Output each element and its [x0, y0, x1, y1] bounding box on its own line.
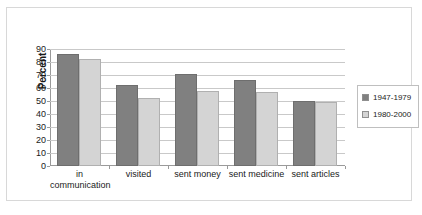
- bar: [197, 91, 219, 166]
- y-axis-tick-label: 40: [36, 110, 46, 119]
- y-axis-tick-label: 70: [36, 71, 46, 80]
- bar-group: [50, 49, 109, 166]
- x-axis-labels: incommunicationvisitedsent moneysent med…: [50, 169, 345, 199]
- x-axis-label-line: in: [50, 169, 109, 180]
- x-axis-tick-label: sent money: [168, 169, 227, 180]
- y-axis-tick-label: 80: [36, 58, 46, 67]
- y-axis-tick-label: 90: [36, 45, 46, 54]
- y-axis-tick-label: 20: [36, 136, 46, 145]
- bar: [57, 54, 79, 166]
- bar-group: [286, 49, 345, 166]
- bar: [138, 98, 160, 166]
- x-axis-label-line: sent medicine: [227, 169, 286, 180]
- x-axis-tick-label: sent medicine: [227, 169, 286, 180]
- bar-group: [109, 49, 168, 166]
- x-axis-tick-label: sent articles: [286, 169, 345, 180]
- bar: [234, 80, 256, 166]
- bar: [175, 74, 197, 166]
- x-axis-tick-mark: [345, 166, 346, 169]
- x-axis-label-line: visited: [109, 169, 168, 180]
- legend-swatch-icon: [362, 111, 369, 118]
- bar: [256, 92, 278, 166]
- bars-layer: [50, 49, 345, 166]
- bar: [315, 102, 337, 166]
- plot-area: 0102030405060708090: [50, 49, 345, 166]
- bar-group: [227, 49, 286, 166]
- bar: [116, 85, 138, 166]
- y-axis-tick-label: 50: [36, 97, 46, 106]
- legend-item: 1947-1979: [362, 91, 414, 104]
- legend-label: 1947-1979: [373, 93, 411, 102]
- y-axis-tick-mark: [47, 166, 50, 167]
- x-axis-label-line: communication: [50, 180, 109, 191]
- legend-item: 1980-2000: [362, 108, 414, 121]
- chart-legend: 1947-19791980-2000: [357, 85, 419, 128]
- y-axis-tick-label: 10: [36, 149, 46, 158]
- x-axis-tick-label: visited: [109, 169, 168, 180]
- x-axis-tick-label: incommunication: [50, 169, 109, 191]
- chart-frame: Percent 0102030405060708090 incommunicat…: [6, 7, 412, 201]
- y-axis-tick-label: 60: [36, 84, 46, 93]
- y-axis-tick-label: 30: [36, 123, 46, 132]
- bar: [293, 101, 315, 166]
- x-axis-label-line: sent articles: [286, 169, 345, 180]
- bar: [79, 59, 101, 166]
- legend-label: 1980-2000: [373, 110, 411, 119]
- bar-group: [168, 49, 227, 166]
- legend-swatch-icon: [362, 94, 369, 101]
- y-axis-tick-label: 0: [41, 162, 46, 171]
- x-axis-label-line: sent money: [168, 169, 227, 180]
